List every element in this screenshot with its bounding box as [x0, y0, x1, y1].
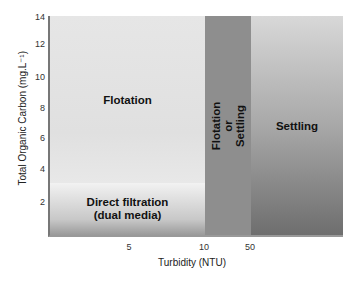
region-flotation-or-settling: Flotation or Settling [205, 16, 251, 235]
x-tick: 50 [245, 242, 255, 252]
y-axis-label: Total Organic Carbon (mg.L⁻¹) [17, 66, 28, 186]
region-flotation: Flotation [50, 16, 205, 183]
chart: Total Organic Carbon (mg.L⁻¹) 14 12 10 8… [0, 0, 359, 282]
y-tick: 6 [40, 133, 45, 143]
fos-label-line1: Flotation [210, 101, 222, 150]
plot-area: Flotation Direct filtration (dual media)… [48, 16, 343, 237]
x-axis-label: Turbidity (NTU) [158, 257, 226, 268]
y-tick: 2 [40, 197, 45, 207]
fos-label-line3: Settling [234, 101, 246, 150]
direct-label-line1: Direct filtration [87, 196, 169, 209]
x-tick: 10 [199, 242, 209, 252]
y-tick: 14 [35, 12, 45, 22]
y-tick: 10 [35, 72, 45, 82]
region-settling: Settling [251, 16, 343, 235]
x-tick: 5 [126, 242, 131, 252]
y-tick: 8 [40, 103, 45, 113]
y-tick: 4 [40, 164, 45, 174]
direct-label-line2: (dual media) [87, 209, 169, 222]
fos-label-line2: or [222, 101, 234, 150]
region-direct-filtration: Direct filtration (dual media) [50, 183, 205, 235]
y-tick: 12 [35, 39, 45, 49]
